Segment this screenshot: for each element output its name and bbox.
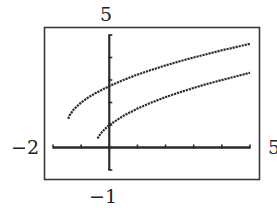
lower-curve: [98, 73, 251, 139]
xmin-label: −2: [11, 136, 39, 158]
calculator-graph: 5 −2 5 −1: [0, 0, 277, 217]
xmax-label: 5: [268, 136, 277, 158]
viewing-window-frame: [45, 28, 260, 180]
ymin-label: −1: [89, 185, 117, 207]
curves: [68, 44, 250, 139]
upper-curve: [68, 44, 250, 119]
ymax-label: 5: [100, 3, 112, 25]
